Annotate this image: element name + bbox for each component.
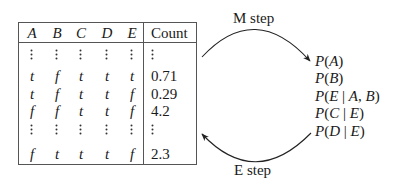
parameter-p-a: P(A): [315, 53, 343, 69]
m-step-arrow: [202, 29, 310, 61]
parameter-p-b: P(B): [315, 70, 343, 86]
parameter-p-c-given-e: P(C | E): [315, 105, 364, 121]
e-step-arrow: [202, 133, 311, 162]
m-step-label: M step: [233, 10, 274, 26]
e-step-label: E step: [234, 162, 271, 178]
parameter-p-e-given-ab: P(E | A, B): [315, 88, 380, 104]
parameter-p-d-given-e: P(D | E): [315, 123, 365, 139]
